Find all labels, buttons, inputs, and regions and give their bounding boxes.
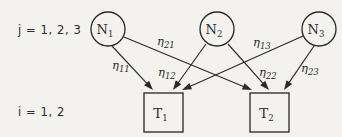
edge-eta13: [182, 36, 303, 90]
edge-line-eta12: [178, 44, 206, 83]
edge-line-eta21: [124, 37, 245, 87]
arrow-head-eta12: [173, 80, 181, 90]
target-node-t2[interactable]: T2: [250, 93, 289, 132]
source-node-n2[interactable]: N2: [200, 12, 234, 46]
target-node-t1[interactable]: T1: [144, 93, 183, 132]
arrow-head-eta21: [242, 83, 252, 90]
edge-eta12: [173, 44, 206, 90]
diagram-canvas: j = 1, 2, 3 i = 1, 2 N1N2N3 T1T2 η11η21η…: [0, 0, 342, 137]
edge-label-eta22: η22: [259, 65, 277, 81]
arrow-head-eta13: [182, 83, 192, 90]
arrow-head-eta23: [284, 80, 292, 90]
diagram-graphics: N1N2N3 T1T2 η11η21η12η22η13η23: [0, 0, 342, 137]
edge-line-eta13: [189, 36, 303, 87]
edge-label-eta12: η12: [158, 65, 176, 81]
edge-label-eta23: η23: [301, 61, 319, 77]
source-nodes-layer: N1N2N3: [91, 12, 336, 46]
edge-label-eta21: η21: [157, 34, 175, 50]
source-node-n3[interactable]: N3: [302, 12, 336, 46]
edge-label-eta13: η13: [253, 35, 271, 51]
target-nodes-layer: T1T2: [144, 93, 289, 132]
edge-eta21: [124, 37, 252, 90]
source-node-n1[interactable]: N1: [91, 12, 125, 46]
edge-label-eta11: η11: [112, 58, 130, 74]
